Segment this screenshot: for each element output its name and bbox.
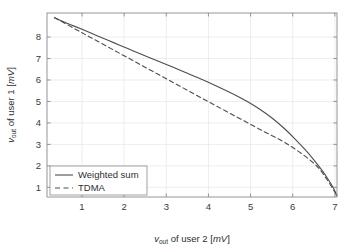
y-tick-label: 5 (36, 96, 41, 107)
x-axis-title: vout of user 2 [mV] (154, 233, 230, 245)
x-tick-label: 6 (290, 201, 295, 212)
figure-container: 1234567 12345678 vout of user 2 [mV] vou… (0, 0, 355, 251)
chart-canvas: 1234567 12345678 vout of user 2 [mV] vou… (0, 0, 355, 251)
y-tick-label: 3 (36, 139, 41, 150)
x-tick-label: 5 (248, 201, 253, 212)
legend-label-tdma: TDMA (78, 182, 106, 193)
x-tick-label: 7 (332, 201, 337, 212)
y-tick-label: 7 (36, 53, 41, 64)
y-tick-label: 1 (36, 182, 41, 193)
y-axis-title: vout of user 1 [mV] (5, 67, 17, 143)
y-tick-label: 6 (36, 74, 41, 85)
legend-label-weighted-sum: Weighted sum (78, 169, 139, 180)
y-tick-label: 8 (36, 31, 41, 42)
legend[interactable]: Weighted sum TDMA (50, 166, 147, 195)
x-tick-label: 4 (206, 201, 211, 212)
y-axis-tick-labels: 12345678 (36, 31, 41, 192)
x-tick-label: 3 (164, 201, 169, 212)
x-tick-label: 2 (121, 201, 126, 212)
x-tick-label: 1 (79, 201, 84, 212)
y-tick-label: 2 (36, 160, 41, 171)
x-axis-tick-labels: 1234567 (79, 201, 337, 212)
y-tick-label: 4 (36, 117, 41, 128)
